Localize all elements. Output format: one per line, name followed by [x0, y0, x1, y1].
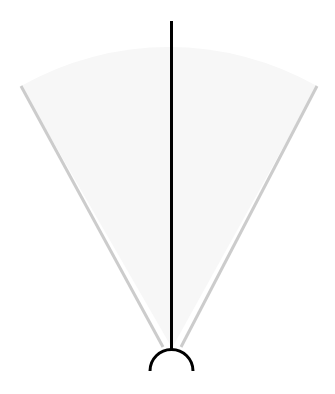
field-of-view-sector	[21, 47, 317, 348]
sensor-icon	[150, 350, 193, 371]
diagram-svg	[0, 0, 335, 394]
field-of-view-diagram	[0, 0, 335, 394]
